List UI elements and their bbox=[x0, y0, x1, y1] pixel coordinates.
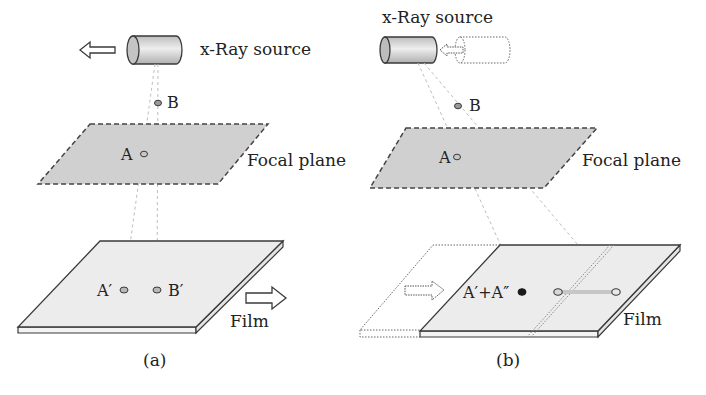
point-b-label-b: B bbox=[469, 96, 481, 115]
source-motion-arrow-icon bbox=[80, 42, 115, 58]
combined-projection-a bbox=[518, 289, 526, 296]
xray-source-label: x-Ray source bbox=[200, 39, 311, 59]
xray-source-cylinder bbox=[127, 36, 182, 64]
point-b-label: B bbox=[167, 93, 179, 112]
panel-b: x-Ray source B A Focal plane bbox=[360, 7, 681, 370]
projection-b bbox=[153, 287, 161, 293]
caption-b: (b) bbox=[496, 350, 520, 370]
combined-projection-label: A′+A″ bbox=[462, 283, 509, 302]
film-label: Film bbox=[230, 311, 269, 331]
xray-source-label-b: x-Ray source bbox=[382, 7, 493, 27]
focal-plane-label: Focal plane bbox=[247, 150, 346, 170]
xray-source-cylinder-b bbox=[380, 37, 437, 63]
point-b bbox=[155, 100, 162, 106]
tomography-diagram: x-Ray source B A Focal plane A′ B′ Film … bbox=[0, 0, 706, 395]
projection-a-label: A′ bbox=[96, 281, 113, 300]
projection-b-label: B′ bbox=[168, 281, 184, 300]
point-a bbox=[454, 154, 461, 160]
projection-b-start bbox=[554, 289, 562, 296]
point-b bbox=[455, 103, 462, 109]
caption-a: (a) bbox=[143, 350, 166, 370]
panel-a: x-Ray source B A Focal plane A′ B′ Film … bbox=[18, 36, 346, 370]
focal-plane bbox=[38, 124, 268, 184]
projection-b-end bbox=[612, 289, 620, 296]
point-a-label-b: A bbox=[438, 148, 451, 167]
source-motion-arrow-icon bbox=[440, 44, 463, 56]
projection-a bbox=[120, 287, 128, 293]
focal-plane-b bbox=[370, 128, 597, 188]
focal-plane-label-b: Focal plane bbox=[582, 150, 681, 170]
film-motion-arrow-icon bbox=[246, 287, 286, 309]
point-a-label: A bbox=[120, 145, 133, 164]
film-label-b: Film bbox=[623, 309, 662, 329]
point-a bbox=[141, 151, 148, 157]
film-motion-arrow-icon bbox=[405, 281, 444, 300]
